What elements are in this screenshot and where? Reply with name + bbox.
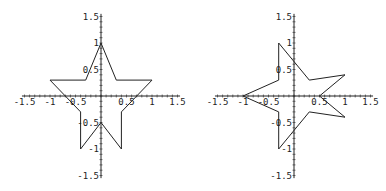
y-tick-label: 1.5 [83,12,99,22]
x-tick-label: 0.5 [118,97,134,107]
y-tick-label: -1.5 [270,171,292,181]
x-tick-label: 1.5 [169,97,185,107]
plots: -1.5-1-0.50.511.51.510.5-0.5-1-1.5-1.5-1… [0,0,386,191]
x-tick-label: -1.5 [14,97,36,107]
y-tick-label: 0.5 [83,65,99,75]
y-tick-label: -1.5 [77,171,99,181]
x-tick-label: 0.5 [311,97,327,107]
plot-1: -1.5-1-0.50.511.51.510.5-0.5-1-1.5 [14,12,186,181]
y-tick-label: 1.5 [276,12,292,22]
x-tick-label: -1.5 [207,97,229,107]
x-tick-label: 1 [149,97,154,107]
y-tick-label: -1 [281,144,292,154]
y-tick-label: -0.5 [270,118,292,128]
x-tick-label: -0.5 [258,97,280,107]
y-tick-label: 1 [94,38,99,48]
x-tick-label: -1 [45,97,56,107]
x-tick-label: 1 [342,97,347,107]
y-tick-label: -1 [88,144,99,154]
x-tick-label: 1.5 [362,97,378,107]
y-tick-label: 0.5 [276,65,292,75]
plot-2: -1.5-1-0.50.511.51.510.5-0.5-1-1.5 [207,12,379,181]
y-tick-label: 1 [287,38,292,48]
x-tick-label: -1 [238,97,249,107]
